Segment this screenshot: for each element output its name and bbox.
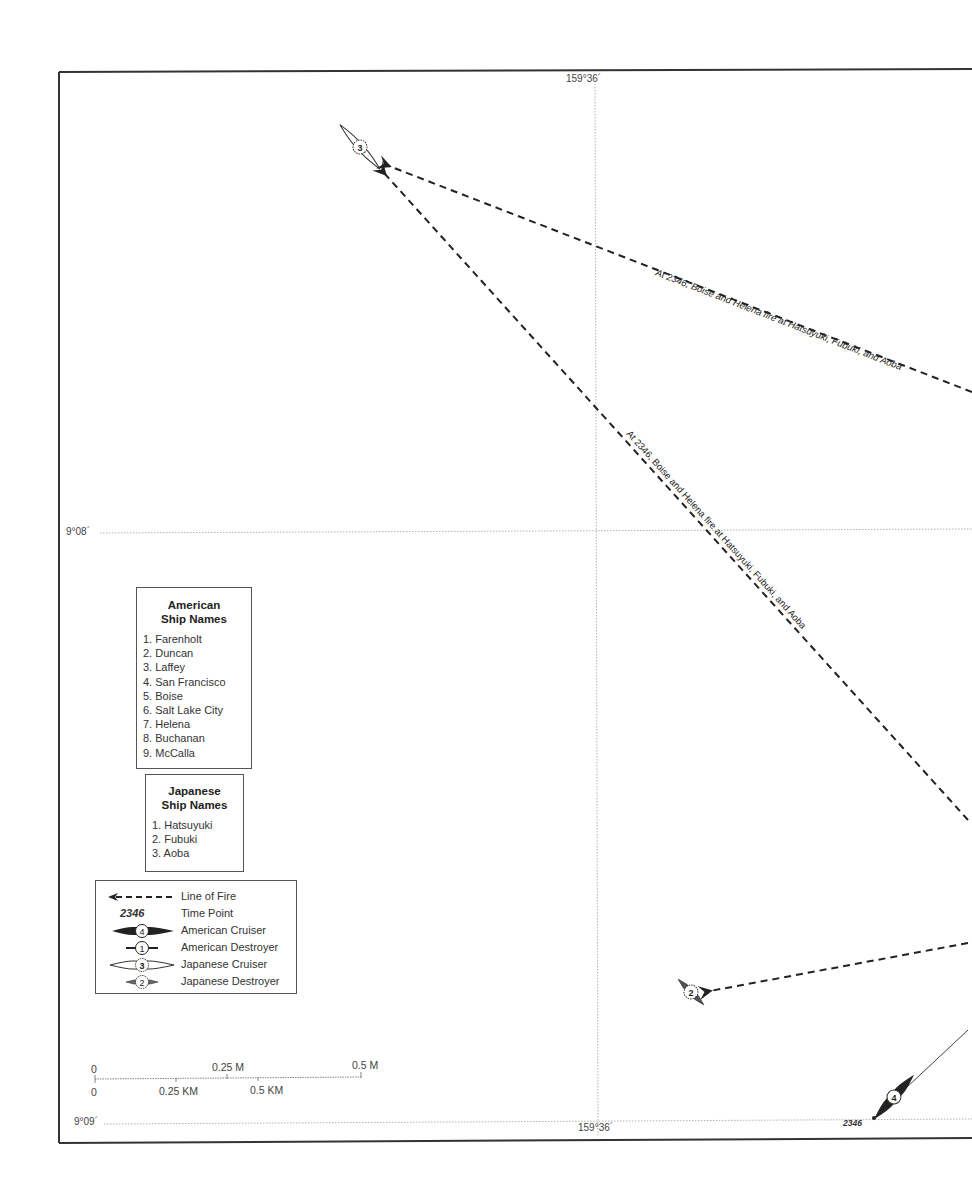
japanese-ship-item: 3. Aoba (152, 846, 243, 860)
longitude-label-top: 159°36´ (566, 73, 601, 84)
latitude-label-908: 9°08´ (66, 526, 90, 537)
american-legend-title-1: American (137, 598, 251, 612)
svg-text:4: 4 (139, 927, 144, 937)
american-ship-item: 1. Farenholt (143, 632, 251, 646)
meridian-159-36 (595, 84, 598, 1136)
fire-line-diagonal (385, 174, 968, 820)
japanese-destroyer-2-number: 2 (688, 988, 693, 998)
fire-line-lower (710, 943, 968, 991)
svg-text:2: 2 (139, 978, 144, 988)
american-ship-item: 8. Buchanan (143, 731, 251, 745)
scale-miles-mid: 0.25 M (212, 1061, 244, 1073)
american-ship-item: 7. Helena (143, 717, 251, 731)
scale-km-mid: 0.25 KM (159, 1085, 198, 1097)
symbol-key-legend: Line of Fire 2346 Time Point 4 American … (95, 880, 297, 994)
key-row-japanese-destroyer: 2 Japanese Destroyer (96, 972, 296, 992)
longitude-label-bottom: 159°36´ (578, 1122, 613, 1133)
time-point-dot (872, 1116, 876, 1120)
time-point-icon: 2346 (120, 907, 144, 919)
scale-bar (95, 1072, 361, 1083)
japanese-legend-title-1: Japanese (146, 784, 243, 798)
japanese-ship-names-legend: Japanese Ship Names 1. Hatsuyuki 2. Fubu… (145, 774, 244, 872)
key-label: American Destroyer (181, 941, 278, 953)
american-legend-title-2: Ship Names (137, 612, 251, 626)
key-label: Time Point (181, 907, 233, 919)
parallel-9-08 (100, 529, 972, 533)
japanese-ship-item: 2. Fubuki (152, 832, 243, 846)
american-ship-item: 3. Laffey (143, 660, 251, 674)
key-label: American Cruiser (181, 924, 266, 936)
american-ship-names-legend: American Ship Names 1. Farenholt 2. Dunc… (136, 587, 252, 769)
key-label: Line of Fire (181, 890, 236, 902)
svg-text:1: 1 (139, 944, 144, 954)
scale-km-end: 0.5 KM (250, 1084, 283, 1096)
japanese-ship-item: 1. Hatsuyuki (152, 818, 243, 832)
scale-miles-end: 0.5 M (352, 1059, 378, 1071)
japanese-legend-title-2: Ship Names (146, 798, 243, 812)
american-ship-list: 1. Farenholt 2. Duncan 3. Laffey 4. San … (137, 632, 251, 760)
american-ship-item: 5. Boise (143, 689, 251, 703)
scale-miles-start: 0 (91, 1063, 97, 1075)
american-ship-item: 6. Salt Lake City (143, 703, 251, 717)
key-label: Japanese Destroyer (181, 975, 279, 987)
japanese-ship-list: 1. Hatsuyuki 2. Fubuki 3. Aoba (146, 818, 243, 861)
fire-line-upper-label: At 2346, Boise and Helena fire at Hatsuy… (653, 266, 903, 372)
japanese-cruiser-3-number: 3 (357, 143, 362, 153)
american-cruiser-4-number: 4 (891, 1093, 896, 1103)
scale-km-start: 0 (91, 1086, 97, 1098)
american-ship-item: 4. San Francisco (143, 675, 251, 689)
lines-of-fire (385, 166, 972, 991)
japanese-destroyer-icon: 2 (104, 972, 176, 992)
time-point-label: 2346 (842, 1118, 862, 1128)
latitude-label-909: 9°09´ (74, 1116, 98, 1127)
key-label: Japanese Cruiser (181, 958, 267, 970)
american-ship-item: 9. McCalla (143, 746, 251, 760)
american-ship-item: 2. Duncan (143, 646, 251, 660)
parallel-9-09 (104, 1119, 972, 1124)
svg-text:3: 3 (139, 961, 144, 971)
